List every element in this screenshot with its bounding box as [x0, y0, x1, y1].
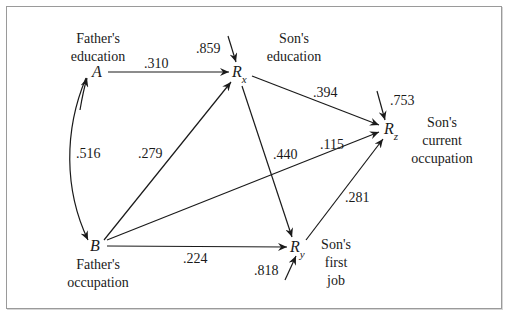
- node-label-ry: Son's first job: [314, 236, 358, 290]
- coef-a-b: .516: [76, 147, 101, 161]
- node-symbol: R: [384, 120, 394, 137]
- label-line: education: [256, 48, 332, 66]
- node-label-rz: Son's current occupation: [400, 114, 484, 168]
- node-symbol: B: [90, 237, 100, 254]
- residual-arrow-rx: [228, 36, 236, 62]
- edge-rx-rz: [252, 76, 379, 125]
- node-ry: Ry: [290, 239, 305, 260]
- coef-a-rx: .310: [144, 57, 169, 71]
- coef-b-rx: .279: [138, 147, 163, 161]
- coef-rx-ry: .440: [273, 148, 298, 162]
- label-line: Father's: [60, 30, 136, 48]
- residual-rz: .753: [390, 94, 415, 108]
- coef-b-ry: .224: [183, 252, 208, 266]
- residual-arrow-rz: [377, 91, 385, 120]
- node-label-b: Father's occupation: [56, 256, 140, 292]
- node-a: A: [92, 64, 102, 80]
- node-symbol: R: [232, 63, 242, 80]
- label-line: first: [314, 254, 358, 272]
- node-subscript: z: [394, 130, 398, 142]
- node-subscript: x: [242, 73, 247, 85]
- coef-b-rz: .115: [320, 138, 344, 152]
- label-line: Father's: [56, 256, 140, 274]
- node-rz: Rz: [384, 121, 398, 142]
- node-label-a: Father's education: [60, 30, 136, 66]
- label-line: occupation: [56, 274, 140, 292]
- label-line: current: [400, 132, 484, 150]
- label-line: Son's: [400, 114, 484, 132]
- node-rx: Rx: [232, 64, 247, 85]
- coef-ry-rz: .281: [345, 191, 370, 205]
- node-subscript: y: [300, 248, 305, 260]
- residual-ry: .818: [254, 264, 279, 278]
- node-symbol: A: [92, 63, 102, 80]
- node-label-rx: Son's education: [256, 30, 332, 66]
- label-line: Son's: [256, 30, 332, 48]
- node-symbol: R: [290, 238, 300, 255]
- coef-rx-rz: .394: [313, 86, 338, 100]
- label-line: occupation: [400, 150, 484, 168]
- residual-rx: .859: [196, 42, 221, 56]
- path-diagram: Father's education A Son's education Rx …: [0, 0, 509, 316]
- edge-b-ry: [107, 246, 287, 247]
- node-b: B: [90, 238, 100, 254]
- label-line: job: [314, 272, 358, 290]
- label-line: Son's: [314, 236, 358, 254]
